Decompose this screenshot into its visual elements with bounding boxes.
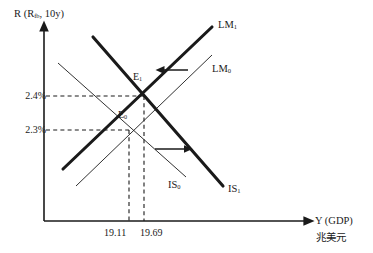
equilibrium-label-e1: E1 <box>133 72 142 82</box>
x-axis-label: Y (GDP) <box>315 216 353 227</box>
x-tick-label-19-69: 19.69 <box>140 228 163 238</box>
y-axis-label-tail: , 10y) <box>40 8 65 19</box>
curve-label-is1-subscript: 1 <box>237 187 240 194</box>
curve-label-is0-text: IS <box>168 179 177 190</box>
curve-label-lm1-text: LM <box>218 19 234 30</box>
curve-label-lm0: LM0 <box>212 64 231 75</box>
curve-label-is1-text: IS <box>228 183 237 194</box>
curve-label-lm0-subscript: 0 <box>228 67 231 74</box>
curve-label-lm1-subscript: 1 <box>234 23 237 30</box>
y-tick-label-2-4: 2.4% <box>6 91 46 101</box>
y-axis-label-text: R (R <box>14 8 34 19</box>
x-tick-label-19-11: 19.11 <box>104 228 126 238</box>
islm-chart: R (Rfb, 10y) Y (GDP) 兆美元 2.4% 2.3% 19.11… <box>0 0 373 253</box>
x-axis-unit-label: 兆美元 <box>316 232 346 243</box>
y-tick-label-2-3: 2.3% <box>6 125 46 135</box>
curve-label-lm0-text: LM <box>212 63 228 74</box>
equilibrium-label-e0: E0 <box>118 110 127 120</box>
curve-label-is0: IS0 <box>168 180 181 191</box>
equilibrium-label-e0-subscript: 0 <box>124 113 127 120</box>
curve-label-is1: IS1 <box>228 184 241 195</box>
curve-label-is0-subscript: 0 <box>177 183 180 190</box>
y-axis-label: R (Rfb, 10y) <box>14 9 64 20</box>
curve-label-lm1: LM1 <box>218 20 237 31</box>
equilibrium-label-e1-subscript: 1 <box>139 75 142 82</box>
